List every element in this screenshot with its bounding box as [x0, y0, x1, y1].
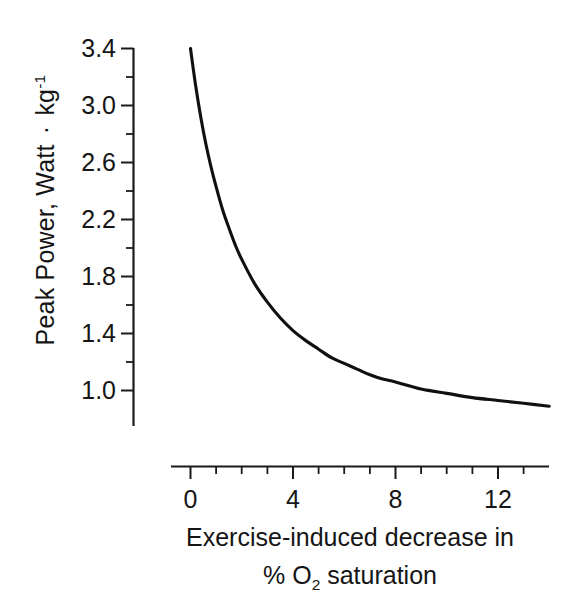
y-tick-label: 3.0	[81, 91, 116, 119]
y-major-ticks	[121, 49, 134, 391]
x-tick-label: 8	[389, 485, 403, 513]
y-tick-label: 2.2	[81, 205, 116, 233]
x-axis-title-line2: % O2 saturation	[130, 556, 570, 604]
x-tick-label: 12	[484, 485, 512, 513]
x-tick-labels: 0 4 8 12	[184, 485, 512, 513]
x-tick-label: 0	[184, 485, 198, 513]
y-tick-label: 2.6	[81, 148, 116, 176]
data-series-curve	[191, 49, 550, 407]
x-axis-title-line2-suffix: saturation	[320, 561, 437, 589]
x-minor-ticks	[216, 467, 523, 475]
y-tick-label: 3.4	[81, 34, 116, 62]
x-axis-title: Exercise-induced decrease in % O2 satura…	[130, 518, 570, 604]
x-axis-title-line2-prefix: % O	[263, 561, 312, 589]
x-tick-label: 4	[286, 485, 300, 513]
plot-canvas: 3.4 3.0 2.6 2.2 1.8 1.4 1.0	[0, 0, 573, 608]
y-tick-label: 1.0	[81, 376, 116, 404]
y-tick-label: 1.4	[81, 319, 116, 347]
x-axis-title-line2-subscript: 2	[312, 576, 321, 593]
y-tick-label: 1.8	[81, 262, 116, 290]
y-tick-labels: 3.4 3.0 2.6 2.2 1.8 1.4 1.0	[81, 34, 116, 404]
chart-figure: 3.4 3.0 2.6 2.2 1.8 1.4 1.0	[0, 0, 573, 608]
x-axis-title-line1: Exercise-induced decrease in	[130, 518, 570, 556]
